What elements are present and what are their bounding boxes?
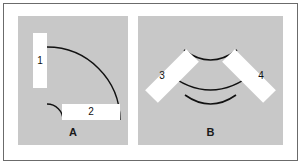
inner-quarter-arc [47,104,63,120]
part-label-1: 1 [33,56,47,66]
lower-arc [185,95,236,104]
panel-a-caption: A [18,127,128,138]
figure-root: 1 2 A 3 4 B [0,0,301,164]
part-label-3: 3 [155,71,169,81]
part-label-4: 4 [254,71,268,81]
part-3-group [145,49,199,103]
panel-b-caption: B [138,127,283,138]
part-3-rectangle [145,49,199,103]
part-label-2: 2 [84,107,98,117]
